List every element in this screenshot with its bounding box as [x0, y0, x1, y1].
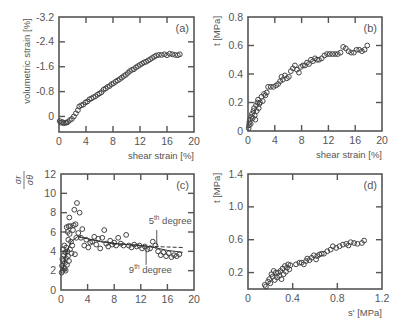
y-tick-label: 2: [50, 264, 56, 276]
data-point: [72, 207, 77, 212]
y-tick-label: 0: [48, 110, 54, 122]
y-tick-label: -0.8: [36, 85, 54, 97]
data-points-measured: [57, 51, 182, 125]
data-points-measured: [262, 238, 366, 289]
panel-label: (d): [364, 179, 377, 191]
y-tick-label: 1.4: [228, 168, 243, 180]
x-tick-label: 20: [188, 135, 200, 147]
x-tick-label: 8: [111, 293, 117, 305]
data-point: [77, 210, 82, 215]
panel-label: (b): [364, 22, 377, 34]
panel-a-volumetric-strain: 048121620-3.2-2.4-1.6-0.80(a)shear strai…: [21, 11, 200, 162]
figure: 048121620-3.2-2.4-1.6-0.80(a)shear strai…: [0, 0, 408, 333]
data-point: [355, 241, 360, 246]
x-tick-label: 0: [56, 135, 62, 147]
data-point: [75, 201, 80, 206]
y-tick-label: 0: [237, 125, 243, 137]
y-axis-label-denominator: σθ: [25, 175, 35, 185]
panel-b-t-vs-shear-strain: 04812162000.20.40.60.8(b)shear strain [%…: [211, 11, 388, 161]
data-point: [102, 228, 107, 233]
y-tick-label: 0.2: [228, 266, 243, 278]
y-tick-label: 0.2: [228, 96, 243, 108]
y-tick-label: 0.4: [228, 68, 243, 80]
annotation-label: 5th degree: [149, 214, 192, 226]
x-tick-label: 4: [83, 135, 89, 147]
plot-frame: [248, 174, 382, 289]
y-axis-label: volumetric strain [%]: [21, 18, 32, 104]
annotation-label: 9th degree: [129, 263, 172, 275]
x-axis-label: s' [MPa]: [348, 307, 382, 318]
x-tick-label: 12: [135, 293, 147, 305]
data-point: [116, 235, 121, 240]
x-tick-label: 8: [110, 135, 116, 147]
data-point: [67, 259, 72, 264]
plot-frame: [248, 17, 382, 131]
y-axis-label: t [MPa]: [211, 16, 222, 46]
x-tick-label: 1.2: [375, 292, 390, 304]
x-tick-label: 12: [134, 135, 146, 147]
panel-label: (c): [176, 179, 189, 191]
y-tick-label: 0.6: [228, 233, 243, 245]
x-tick-label: 0.8: [330, 292, 345, 304]
data-point: [76, 231, 81, 236]
y-tick-label: 6: [50, 226, 56, 238]
data-point: [71, 228, 76, 233]
x-tick-label: 0: [58, 293, 64, 305]
y-tick-label: 4: [50, 245, 56, 257]
y-tick-label: -3.2: [36, 11, 54, 23]
y-tick-label: 8: [50, 206, 56, 218]
data-point: [352, 241, 357, 246]
data-point: [158, 253, 163, 258]
data-point: [86, 245, 91, 250]
x-axis-label: shear strain [%]: [316, 149, 382, 160]
y-tick-label: -2.4: [36, 35, 54, 47]
x-tick-label: 16: [161, 135, 173, 147]
y-tick-label: 10: [44, 187, 56, 199]
data-point: [98, 246, 103, 251]
data-point: [365, 43, 370, 48]
panel-label: (a): [176, 22, 189, 34]
y-tick-label: 0.8: [228, 11, 243, 23]
y-tick-label: 12: [44, 168, 56, 180]
y-tick-label: 1.0: [228, 200, 243, 212]
panel-c-stress-ratio: 048121620024681012(c)σrσθ5th degree9th d…: [13, 168, 200, 306]
x-tick-label: 20: [188, 293, 200, 305]
y-axis-label-numerator: σr: [13, 175, 23, 184]
data-point: [94, 242, 99, 247]
x-axis-label: shear strain [%]: [128, 150, 194, 161]
x-tick-label: 0: [245, 134, 251, 146]
y-tick-label: 0.6: [228, 39, 243, 51]
data-point: [80, 227, 85, 232]
y-axis-label: t [MPa]: [211, 173, 222, 203]
x-tick-label: 8: [299, 134, 305, 146]
data-point: [164, 254, 169, 259]
panel-d-t-vs-s: 00.40.81.20.20.61.01.4(d)s' [MPa]t [MPa]: [211, 168, 389, 319]
x-tick-label: 0: [245, 292, 251, 304]
x-tick-label: 4: [272, 134, 278, 146]
data-point: [67, 215, 72, 220]
data-points-measured: [246, 43, 369, 130]
x-tick-label: 4: [85, 293, 91, 305]
x-tick-label: 20: [376, 134, 388, 146]
y-tick-label: 0: [50, 284, 56, 296]
y-tick-label: -1.6: [36, 60, 54, 72]
data-point: [124, 233, 129, 238]
x-tick-label: 0.4: [285, 292, 300, 304]
x-tick-label: 12: [323, 134, 335, 146]
x-tick-label: 16: [349, 134, 361, 146]
x-tick-label: 16: [162, 293, 174, 305]
